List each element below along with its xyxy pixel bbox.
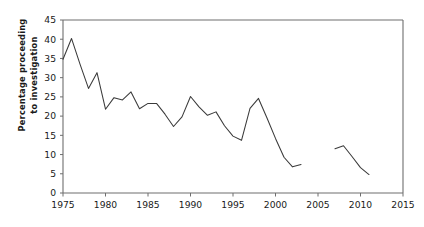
y-tick-label: 35	[44, 53, 56, 64]
x-tick-label: 1990	[179, 199, 203, 210]
data-series-group	[63, 38, 369, 174]
y-tick-label: 40	[44, 34, 56, 45]
y-tick-label: 45	[44, 14, 56, 25]
x-tick-label: 2005	[306, 199, 330, 210]
y-tick-label: 25	[44, 91, 56, 102]
chart-figure: Percentage proceeding to investigation 0…	[0, 0, 424, 227]
y-tick-label: 5	[50, 168, 56, 179]
y-tick-label: 15	[44, 130, 56, 141]
x-tick-label: 2000	[264, 199, 288, 210]
y-tick-label: 0	[50, 187, 56, 198]
y-tick-label-group: 051015202530354045	[44, 14, 56, 198]
data-series-line-2	[335, 146, 369, 175]
x-tick-label: 1995	[221, 199, 245, 210]
y-tick-label: 10	[44, 149, 56, 160]
y-tick-label: 20	[44, 110, 56, 121]
y-tick-label: 30	[44, 72, 56, 83]
x-tick-label: 1985	[136, 199, 160, 210]
x-tick-label-group: 197519801985199019952000200520102015	[51, 199, 415, 210]
x-tick-label: 1975	[51, 199, 75, 210]
data-series-line-1	[63, 38, 301, 166]
x-tick-label: 2010	[349, 199, 373, 210]
x-tick-label: 1980	[94, 199, 118, 210]
x-tick-label: 2015	[391, 199, 415, 210]
line-chart-plot: 051015202530354045 197519801985199019952…	[0, 0, 424, 227]
